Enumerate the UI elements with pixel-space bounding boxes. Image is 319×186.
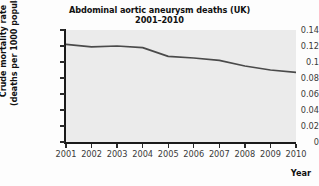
y-tick-mark bbox=[60, 141, 65, 142]
y-axis-title-line-2: (deaths per 1000 population) bbox=[10, 0, 21, 106]
x-tick-mark bbox=[168, 144, 169, 148]
x-axis-title: Year bbox=[291, 168, 311, 178]
y-tick-mark bbox=[60, 29, 65, 30]
y-tick-mark bbox=[60, 93, 65, 94]
y-axis-title: Crude mortality rate (deaths per 1000 po… bbox=[0, 0, 23, 106]
y-tick-label: 0.08 bbox=[261, 74, 319, 82]
x-tick-mark bbox=[219, 144, 220, 148]
y-tick-mark bbox=[60, 45, 65, 46]
chart-title-line-1: Abdominal aortic aneurysm deaths (UK) bbox=[0, 5, 319, 15]
x-tick-mark bbox=[116, 144, 117, 148]
y-axis-title-line-1: Crude mortality rate bbox=[0, 0, 10, 106]
y-tick-mark bbox=[60, 77, 65, 78]
x-tick-mark bbox=[65, 144, 66, 148]
x-tick-mark bbox=[142, 144, 143, 148]
x-tick-mark bbox=[193, 144, 194, 148]
chart-title-line-2: 2001–2010 bbox=[0, 15, 319, 25]
y-tick-mark bbox=[60, 61, 65, 62]
chart-title: Abdominal aortic aneurysm deaths (UK) 20… bbox=[0, 5, 319, 25]
x-tick-mark bbox=[244, 144, 245, 148]
y-tick-label: 0.06 bbox=[261, 90, 319, 98]
y-tick-label: 0.1 bbox=[261, 58, 319, 66]
x-tick-mark bbox=[91, 144, 92, 148]
x-tick-mark bbox=[270, 144, 271, 148]
y-tick-label: 0.02 bbox=[261, 122, 319, 130]
y-tick-label: 0.04 bbox=[261, 106, 319, 114]
x-tick-mark bbox=[295, 144, 296, 148]
y-tick-mark bbox=[60, 125, 65, 126]
x-tick-label: 2010 bbox=[281, 150, 311, 159]
y-tick-mark bbox=[60, 109, 65, 110]
chart-figure: Abdominal aortic aneurysm deaths (UK) 20… bbox=[0, 0, 319, 186]
y-tick-label: 0.12 bbox=[261, 42, 319, 50]
y-tick-label: 0.14 bbox=[261, 26, 319, 34]
